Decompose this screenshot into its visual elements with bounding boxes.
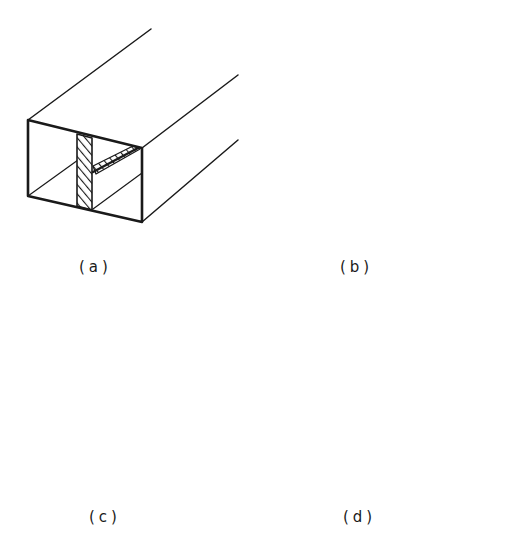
box-section-diagram: [0, 0, 513, 550]
panel-label-b: (b): [340, 258, 373, 276]
panel-label-c: (c): [89, 508, 121, 526]
panel-label-d: (d): [343, 508, 376, 526]
panel-a: [28, 29, 238, 222]
panel-label-a: (a): [79, 258, 112, 276]
